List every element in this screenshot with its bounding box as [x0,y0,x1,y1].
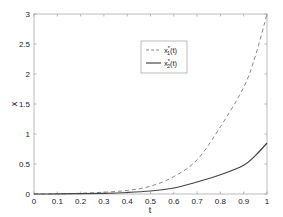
y-axis-label: x [9,101,19,106]
x-tick-label: 0.2 [75,197,87,206]
legend-label-2: x*2(t) [164,58,178,69]
x-tick-label: 0.8 [215,197,227,206]
x-tick-label: 0.7 [192,197,204,206]
x-tick-label: 0.4 [122,197,134,206]
series-line-2 [34,143,267,194]
x-tick-label: 0.6 [168,197,180,206]
y-tick-label: 0.5 [19,160,31,169]
x-tick-label: 0 [32,197,37,206]
x-axis-label: t [149,205,152,215]
legend: x*1(t)x*2(t) [141,41,187,73]
y-tick-label: 3 [26,10,31,19]
y-tick-label: 1.5 [19,100,31,109]
x-tick-label: 0.9 [238,197,250,206]
y-tick-label: 1 [26,130,31,139]
y-tick-label: 2 [26,70,31,79]
y-tick-label: 0 [26,190,31,199]
line-chart: 00.10.20.30.40.50.60.70.80.91 00.511.522… [0,0,283,217]
x-tick-label: 0.3 [98,197,110,206]
x-tick-label: 0.1 [52,197,64,206]
y-axis-ticks: 00.511.522.53 [19,10,267,199]
x-tick-label: 1 [265,197,270,206]
legend-label-1: x*1(t) [164,45,178,56]
y-tick-label: 2.5 [19,40,31,49]
